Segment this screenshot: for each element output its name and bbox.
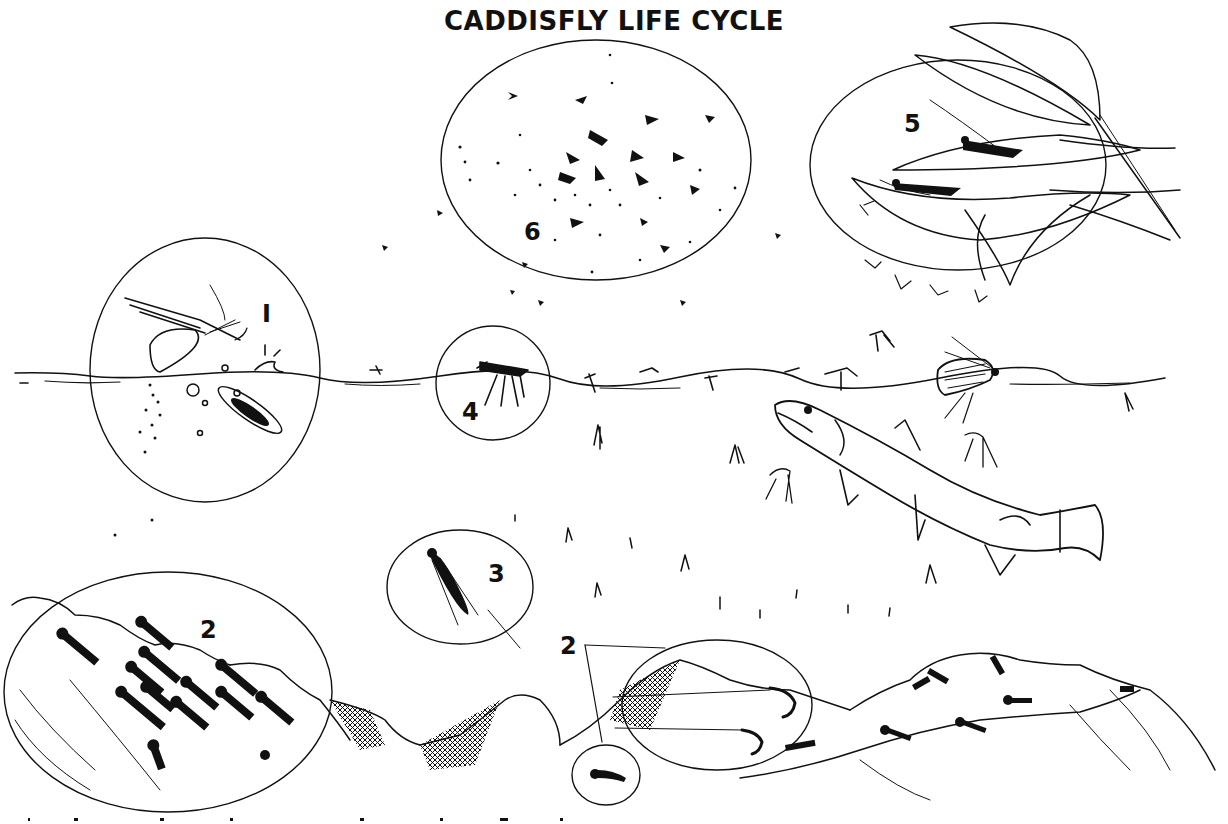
stage-2-right-label: 2 bbox=[560, 632, 577, 660]
ascending-pupa bbox=[427, 548, 520, 648]
hovering-adults bbox=[860, 201, 987, 302]
cased-larvae bbox=[54, 613, 296, 771]
splash bbox=[255, 345, 283, 372]
resting-adult-caddis bbox=[892, 136, 1023, 196]
pupa-near-trout bbox=[766, 433, 997, 503]
stage-5-label: 5 bbox=[904, 110, 921, 138]
trout bbox=[775, 401, 1103, 575]
rising-pupae bbox=[515, 393, 1133, 618]
emerging-adult bbox=[477, 362, 528, 406]
caddisfly-illustration: 6 bbox=[0, 0, 1228, 824]
egg-mass bbox=[187, 365, 287, 440]
stage-2-net-spinner-circle: 2 bbox=[560, 632, 812, 805]
flying-adult bbox=[870, 331, 894, 351]
stage-1-egg-laying-circle: I bbox=[90, 238, 320, 537]
caption-fragment bbox=[28, 818, 563, 821]
stage-5-leaves-circle: 5 bbox=[810, 23, 1180, 302]
stage-6-label: 6 bbox=[524, 218, 541, 246]
stage-3-label: 3 bbox=[488, 560, 505, 588]
rock-larvae-right bbox=[785, 655, 1134, 751]
swarm-specks bbox=[458, 54, 736, 274]
stage-4-label: 4 bbox=[462, 398, 479, 426]
stage-2-left-label: 2 bbox=[200, 616, 217, 644]
surface-adult-large bbox=[937, 337, 999, 423]
silk-net-hatching bbox=[330, 660, 680, 770]
inset-larva bbox=[590, 769, 626, 782]
trout-fins bbox=[840, 420, 1060, 575]
stage-2-cased-larvae-circle: 2 bbox=[4, 572, 332, 812]
streambed-rocks bbox=[230, 653, 1215, 800]
stage-3-pupa-circle: 3 bbox=[387, 530, 533, 648]
stage-4-emergence-circle: 4 bbox=[436, 326, 550, 440]
stage-6-swarm-circle: 6 bbox=[441, 40, 751, 280]
stray-flies bbox=[382, 210, 781, 306]
egg-laying-adult bbox=[125, 285, 247, 372]
stage-1-label: I bbox=[262, 300, 271, 328]
